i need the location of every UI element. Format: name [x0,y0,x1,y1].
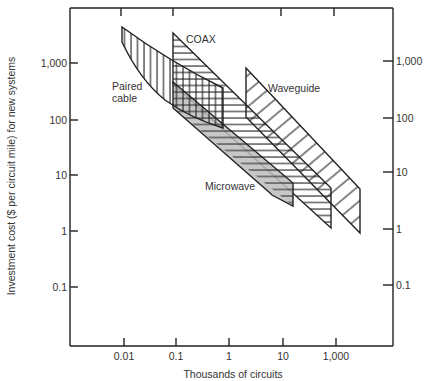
label-paired-cable-2: cable [112,92,137,104]
y-tick-label-left: 10 [55,169,67,181]
x-tick-label: 0.1 [169,350,184,362]
y-ticks-left [70,63,78,287]
y-ticks-right [383,61,393,285]
y-axis-title: Investment cost ($ per circuit mile) for… [5,57,17,296]
label-waveguide: Waveguide [268,82,320,94]
label-coax: COAX [186,33,216,45]
y-tick-label-left: 1 [61,225,67,237]
label-paired-cable: Paired [112,80,143,92]
chart: 0.01 0.1 1 10 1,000 1,000 100 10 1 0.1 1… [0,0,426,381]
x-tick-label: 10 [277,350,289,362]
y-tick-label-left: 1,000 [41,57,67,69]
x-tick-label: 1,000 [323,350,349,362]
y-tick-label-right: 100 [396,112,414,124]
y-tick-label-right: 10 [396,166,408,178]
x-axis-title: Thousands of circuits [183,368,282,380]
y-tick-label-right: 1 [396,223,402,235]
top-ticks [121,8,334,16]
x-ticks [124,338,336,346]
label-microwave: Microwave [205,180,255,192]
y-tick-label-left: 100 [49,114,67,126]
x-tick-label: 0.01 [114,350,135,362]
x-tick-label: 1 [226,350,232,362]
band-coax [173,33,331,228]
y-tick-label-right: 0.1 [396,279,411,291]
y-tick-label-left: 0.1 [52,281,67,293]
y-tick-label-right: 1,000 [396,55,422,67]
